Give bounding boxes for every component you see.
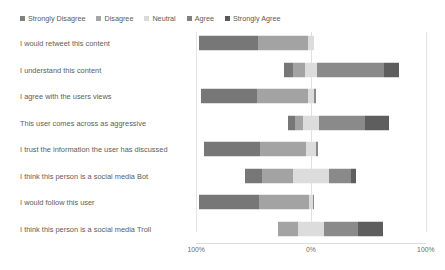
- stacked-bar[interactable]: [199, 195, 314, 210]
- bar-segment-strongly-agree[interactable]: [351, 168, 357, 183]
- category-label: I trust the information the user has dis…: [20, 145, 168, 154]
- bar-segment-neutral[interactable]: [298, 221, 323, 236]
- legend-swatch-icon: [187, 16, 192, 21]
- bar-segment-strongly-disagree[interactable]: [284, 62, 293, 77]
- legend-item[interactable]: Agree: [187, 15, 214, 22]
- bar-segment-strongly-agree[interactable]: [358, 221, 383, 236]
- category-label: I agree with the users views: [20, 92, 111, 101]
- stacked-bar[interactable]: [278, 221, 384, 236]
- stacked-bar[interactable]: [288, 115, 389, 130]
- bar-segment-disagree[interactable]: [295, 115, 303, 130]
- bar-segment-strongly-agree[interactable]: [384, 62, 399, 77]
- legend-item[interactable]: Strongly Agree: [225, 15, 280, 22]
- plot-area: I would retweet this contentI understand…: [0, 30, 445, 242]
- legend-swatch-icon: [225, 16, 230, 21]
- legend-item[interactable]: Neutral: [144, 15, 175, 22]
- bar-segment-strongly-disagree[interactable]: [245, 168, 262, 183]
- axis-tick-label: 100%: [187, 246, 204, 253]
- bar-segment-neutral[interactable]: [303, 115, 319, 130]
- bar-segment-disagree[interactable]: [259, 195, 310, 210]
- chart-row: This user comes across as aggressive: [0, 110, 445, 137]
- bar-segment-disagree[interactable]: [262, 168, 293, 183]
- category-label: This user comes across as aggressive: [20, 118, 146, 127]
- bar-segment-disagree[interactable]: [293, 62, 304, 77]
- chart-row: I would retweet this content: [0, 30, 445, 57]
- bar-segment-neutral[interactable]: [306, 142, 316, 157]
- bar-segment-agree[interactable]: [314, 89, 315, 104]
- bar-segment-disagree[interactable]: [278, 221, 299, 236]
- stacked-bar[interactable]: [199, 36, 314, 51]
- bar-segment-strongly-disagree[interactable]: [199, 36, 258, 51]
- bar-segment-neutral[interactable]: [293, 168, 329, 183]
- stacked-bar[interactable]: [284, 62, 399, 77]
- chart-legend: Strongly DisagreeDisagreeNeutralAgreeStr…: [20, 13, 280, 25]
- chart-row: I agree with the users views: [0, 83, 445, 110]
- category-label: I think this person is a social media Tr…: [20, 224, 151, 233]
- category-label: I think this person is a social media Bo…: [20, 171, 148, 180]
- bar-segment-strongly-disagree[interactable]: [199, 195, 259, 210]
- bar-segment-disagree[interactable]: [257, 89, 308, 104]
- legend-label: Disagree: [104, 15, 133, 22]
- bar-segment-disagree[interactable]: [260, 142, 306, 157]
- bar-segment-agree[interactable]: [313, 195, 314, 210]
- stacked-bar[interactable]: [245, 168, 356, 183]
- legend-label: Strongly Agree: [233, 15, 280, 22]
- legend-item[interactable]: Strongly Disagree: [20, 15, 85, 22]
- bar-segment-strongly-agree[interactable]: [365, 115, 389, 130]
- bar-segment-strongly-disagree[interactable]: [288, 115, 295, 130]
- bar-segment-neutral[interactable]: [308, 36, 314, 51]
- bar-segment-agree[interactable]: [329, 168, 351, 183]
- axis-tick-label: 0%: [306, 246, 316, 253]
- axis-tick-label: 100%: [417, 246, 434, 253]
- legend-item[interactable]: Disagree: [96, 15, 133, 22]
- chart-row: I would follow this user: [0, 189, 445, 216]
- chart-row: I think this person is a social media Bo…: [0, 163, 445, 190]
- stacked-bar[interactable]: [204, 142, 319, 157]
- bar-segment-disagree[interactable]: [258, 36, 309, 51]
- legend-swatch-icon: [96, 16, 101, 21]
- bar-segment-agree[interactable]: [319, 115, 365, 130]
- stacked-bar[interactable]: [201, 89, 316, 104]
- chart-row: I understand this content: [0, 57, 445, 84]
- legend-swatch-icon: [20, 16, 25, 21]
- bar-segment-agree[interactable]: [316, 142, 318, 157]
- legend-label: Agree: [195, 15, 214, 22]
- bar-segment-neutral[interactable]: [308, 89, 315, 104]
- category-label: I understand this content: [20, 65, 101, 74]
- chart-row: I trust the information the user has dis…: [0, 136, 445, 163]
- bar-segment-agree[interactable]: [324, 221, 358, 236]
- legend-label: Strongly Disagree: [28, 15, 85, 22]
- bar-segment-strongly-disagree[interactable]: [201, 89, 257, 104]
- legend-label: Neutral: [152, 15, 175, 22]
- bar-segment-neutral[interactable]: [305, 62, 318, 77]
- category-label: I would retweet this content: [20, 39, 110, 48]
- likert-chart: Strongly DisagreeDisagreeNeutralAgreeStr…: [0, 0, 445, 270]
- bar-segment-agree[interactable]: [317, 62, 384, 77]
- x-axis: 100%0%100%: [0, 243, 445, 257]
- bar-segment-strongly-disagree[interactable]: [204, 142, 260, 157]
- axis-line: [196, 243, 426, 244]
- chart-row: I think this person is a social media Tr…: [0, 216, 445, 243]
- category-label: I would follow this user: [20, 198, 95, 207]
- legend-swatch-icon: [144, 16, 149, 21]
